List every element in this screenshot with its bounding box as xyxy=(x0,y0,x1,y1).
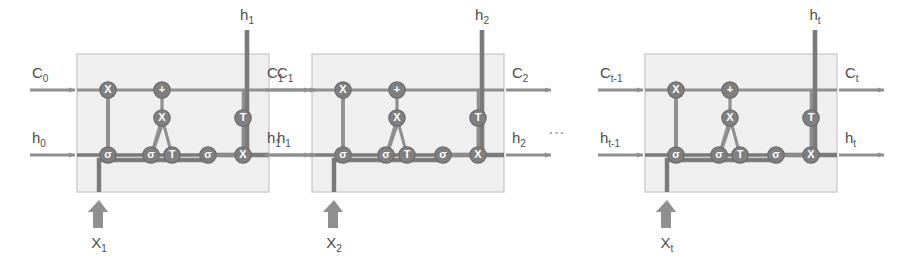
node-candidate-tanh-3-glyph: T xyxy=(737,148,744,160)
node-input-multiply-3-glyph: X xyxy=(726,111,734,123)
node-input-multiply-2-glyph: X xyxy=(393,111,401,123)
node-output-gate-sigmoid-3: σ xyxy=(768,147,784,163)
node-input-multiply-2: X xyxy=(389,110,405,126)
node-forget-gate-sigmoid-3-glyph: σ xyxy=(672,148,680,160)
node-output-multiply-2: X xyxy=(470,147,486,163)
node-output-gate-sigmoid-2: σ xyxy=(435,147,451,163)
node-forget-multiply-3: X xyxy=(668,82,684,98)
node-forget-multiply-1: X xyxy=(100,82,116,98)
node-state-add-1-glyph: + xyxy=(159,83,165,95)
node-output-multiply-3: X xyxy=(803,147,819,163)
node-state-add-2: + xyxy=(389,82,405,98)
node-input-gate-sigmoid-2: σ xyxy=(378,147,394,163)
node-input-gate-sigmoid-3: σ xyxy=(711,147,727,163)
node-output-tanh-1: T xyxy=(235,110,251,126)
node-output-tanh-3: T xyxy=(803,110,819,126)
node-output-gate-sigmoid-3-glyph: σ xyxy=(772,148,780,160)
node-input-gate-sigmoid-3-glyph: σ xyxy=(715,148,723,160)
node-candidate-tanh-1: T xyxy=(164,147,180,163)
node-input-gate-sigmoid-2-glyph: σ xyxy=(382,148,390,160)
node-forget-gate-sigmoid-1-glyph: σ xyxy=(104,148,112,160)
node-state-add-1: + xyxy=(154,82,170,98)
node-forget-gate-sigmoid-2: σ xyxy=(335,147,351,163)
node-output-gate-sigmoid-2-glyph: σ xyxy=(439,148,447,160)
node-candidate-tanh-2-glyph: T xyxy=(404,148,411,160)
node-output-tanh-2-glyph: T xyxy=(475,111,482,123)
node-output-gate-sigmoid-1: σ xyxy=(200,147,216,163)
node-output-gate-sigmoid-1-glyph: σ xyxy=(204,148,212,160)
node-forget-multiply-1-glyph: X xyxy=(104,83,112,95)
node-forget-gate-sigmoid-2-glyph: σ xyxy=(339,148,347,160)
node-candidate-tanh-3: T xyxy=(732,147,748,163)
node-input-gate-sigmoid-1-glyph: σ xyxy=(147,148,155,160)
node-output-tanh-3-glyph: T xyxy=(808,111,815,123)
ellipsis-between-cells: ... xyxy=(548,119,565,138)
lstm-unrolled-svg: XσσTX+σTXXσσTX+σTXXσσTX+σTX C0h0C1h1h1X1… xyxy=(0,0,914,258)
node-output-tanh-2: T xyxy=(470,110,486,126)
node-output-multiply-3-glyph: X xyxy=(807,148,815,160)
node-output-tanh-1-glyph: T xyxy=(240,111,247,123)
node-input-multiply-1-glyph: X xyxy=(158,111,166,123)
node-input-gate-sigmoid-1: σ xyxy=(143,147,159,163)
node-output-multiply-1-glyph: X xyxy=(239,148,247,160)
node-forget-multiply-2-glyph: X xyxy=(339,83,347,95)
node-input-multiply-3: X xyxy=(722,110,738,126)
node-output-multiply-1: X xyxy=(235,147,251,163)
node-state-add-3-glyph: + xyxy=(727,83,733,95)
node-candidate-tanh-2: T xyxy=(399,147,415,163)
node-state-add-2-glyph: + xyxy=(394,83,400,95)
node-input-multiply-1: X xyxy=(154,110,170,126)
lstm-diagram-canvas: XσσTX+σTXXσσTX+σTXXσσTX+σTX C0h0C1h1h1X1… xyxy=(0,0,914,258)
node-state-add-3: + xyxy=(722,82,738,98)
node-forget-multiply-2: X xyxy=(335,82,351,98)
node-output-multiply-2-glyph: X xyxy=(474,148,482,160)
node-candidate-tanh-1-glyph: T xyxy=(169,148,176,160)
node-forget-gate-sigmoid-3: σ xyxy=(668,147,684,163)
node-forget-multiply-3-glyph: X xyxy=(672,83,680,95)
node-forget-gate-sigmoid-1: σ xyxy=(100,147,116,163)
